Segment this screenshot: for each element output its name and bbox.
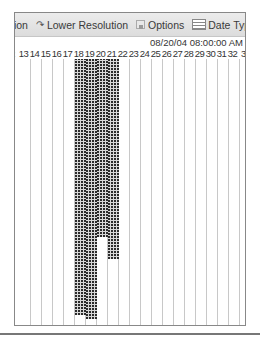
column-label: 20 bbox=[95, 48, 106, 59]
column-label: 3 bbox=[238, 48, 246, 59]
activity-bar-col-19[interactable] bbox=[86, 59, 97, 319]
column-label: 25 bbox=[150, 48, 161, 59]
column-label: 26 bbox=[161, 48, 172, 59]
column-label: 23 bbox=[128, 48, 139, 59]
column-label: 31 bbox=[216, 48, 227, 59]
timeline-grid[interactable] bbox=[15, 59, 245, 325]
column-label: 15 bbox=[40, 48, 51, 59]
column-label: 28 bbox=[183, 48, 194, 59]
date-type-label: Date Type bbox=[208, 19, 246, 31]
column-label: 16 bbox=[51, 48, 62, 59]
activity-bar-col-20[interactable] bbox=[97, 59, 108, 237]
resolution-button-label: tion bbox=[14, 19, 28, 31]
column-label: 21 bbox=[106, 48, 117, 59]
lower-resolution-button[interactable]: ↷ Lower Resolution bbox=[36, 19, 128, 31]
column-label: 13 bbox=[18, 48, 29, 59]
activity-bar-col-21[interactable] bbox=[108, 59, 119, 259]
divider bbox=[0, 333, 260, 335]
options-button[interactable]: Options bbox=[136, 19, 184, 31]
options-icon bbox=[136, 20, 145, 29]
timeline-date-label: 08/20/04 08:00:00 AM bbox=[15, 37, 245, 48]
column-label: 14 bbox=[29, 48, 40, 59]
column-label: 17 bbox=[62, 48, 73, 59]
column-label: 22 bbox=[117, 48, 128, 59]
activity-timeline-panel: tion ↷ Lower Resolution Options Date Typ… bbox=[14, 12, 246, 326]
column-label: 19 bbox=[84, 48, 95, 59]
column-label: 30 bbox=[205, 48, 216, 59]
lower-resolution-label: Lower Resolution bbox=[47, 19, 128, 31]
column-label: 32 bbox=[227, 48, 238, 59]
arrow-icon: ↷ bbox=[36, 19, 44, 30]
column-label: 18 bbox=[73, 48, 84, 59]
column-label: 27 bbox=[172, 48, 183, 59]
calendar-list-icon bbox=[192, 19, 206, 30]
timeline-column-header: 2 13 14 15 16 17 18 19 20 21 22 23 24 25… bbox=[14, 48, 246, 59]
column-label: 24 bbox=[139, 48, 150, 59]
date-type-dropdown[interactable]: Date Type ▼ bbox=[192, 19, 246, 31]
resolution-button-partial[interactable]: tion bbox=[14, 19, 28, 31]
options-label: Options bbox=[148, 19, 184, 31]
column-label: 29 bbox=[194, 48, 205, 59]
toolbar: tion ↷ Lower Resolution Options Date Typ… bbox=[15, 13, 245, 37]
activity-bar-col-18[interactable] bbox=[75, 59, 86, 315]
